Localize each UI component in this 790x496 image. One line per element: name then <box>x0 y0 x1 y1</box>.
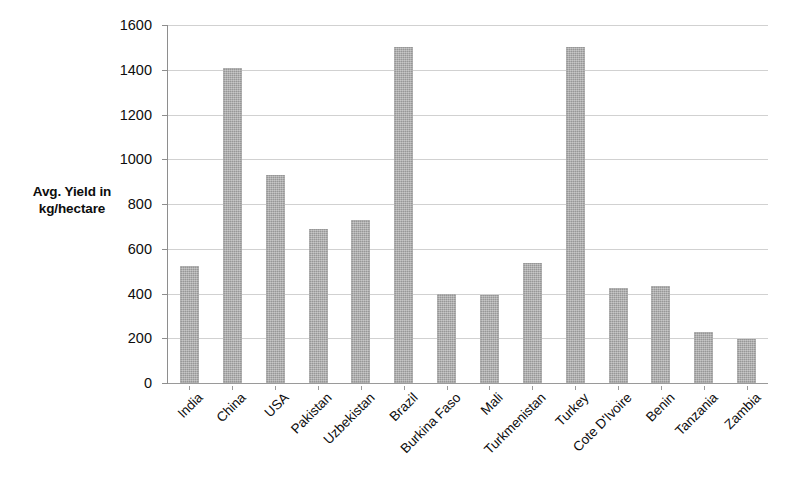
y-axis-tick <box>162 115 168 116</box>
x-axis-tick <box>275 386 276 390</box>
x-axis-tick-label: China <box>214 390 249 425</box>
bar <box>180 266 199 383</box>
y-axis-tick-label: 0 <box>92 375 152 391</box>
x-axis-tick <box>318 386 319 390</box>
bar <box>309 229 328 383</box>
x-axis-tick <box>532 386 533 390</box>
gridline <box>168 159 768 160</box>
x-axis-tick <box>447 386 448 390</box>
bar <box>394 47 413 383</box>
x-axis-tick <box>361 386 362 390</box>
x-axis-tick-label: India <box>175 390 206 421</box>
x-axis-tick <box>661 386 662 390</box>
y-axis-tick-label: 200 <box>92 330 152 346</box>
x-axis-tick <box>489 386 490 390</box>
bar <box>480 295 499 383</box>
plot-area <box>168 25 768 383</box>
y-axis-tick-label: 1000 <box>92 151 152 167</box>
y-axis-tick <box>162 204 168 205</box>
y-axis-tick-labels: 02004006008001000120014001600 <box>92 0 152 496</box>
y-axis-tick-label: 800 <box>92 196 152 212</box>
y-axis-tick <box>162 294 168 295</box>
bar <box>266 175 285 383</box>
gridline <box>168 25 768 26</box>
bar <box>523 263 542 383</box>
bar <box>566 47 585 383</box>
x-axis-baseline <box>168 383 768 384</box>
gridline <box>168 204 768 205</box>
gridline <box>168 294 768 295</box>
y-axis-tick <box>162 338 168 339</box>
y-axis-tick-label: 1200 <box>92 107 152 123</box>
x-axis-tick-label: Turkey <box>553 390 592 429</box>
x-axis-tick <box>189 386 190 390</box>
gridline <box>168 70 768 71</box>
gridline <box>168 338 768 339</box>
x-axis-tick <box>232 386 233 390</box>
y-axis-tick <box>162 70 168 71</box>
bar <box>609 288 628 383</box>
y-axis-tick <box>162 25 168 26</box>
y-axis-tick-label: 400 <box>92 286 152 302</box>
y-axis-tick <box>162 383 168 384</box>
y-axis-tick-label: 600 <box>92 241 152 257</box>
x-axis-tick-label: Zambia <box>721 390 763 432</box>
bar <box>651 286 670 383</box>
x-axis-tick <box>747 386 748 390</box>
bar <box>737 339 756 383</box>
y-axis-tick <box>162 249 168 250</box>
x-axis-tick <box>575 386 576 390</box>
y-axis-tick-label: 1600 <box>92 17 152 33</box>
x-axis-tick-label: USA <box>262 390 292 420</box>
y-axis-tick <box>162 159 168 160</box>
x-axis-tick-label: Mali <box>478 390 506 418</box>
x-axis-tick-label: Tanzania <box>672 390 720 438</box>
gridline <box>168 249 768 250</box>
x-axis-tick <box>704 386 705 390</box>
bar <box>437 294 456 384</box>
y-axis-tick-label: 1400 <box>92 62 152 78</box>
bar <box>351 220 370 383</box>
x-axis-tick-labels: IndiaChinaUSAPakistanUzbekistanBrazilBur… <box>168 386 768 496</box>
bar <box>223 68 242 383</box>
x-axis-tick-label: Brazil <box>386 390 420 424</box>
gridline <box>168 115 768 116</box>
x-axis-tick-label: Benin <box>643 390 678 425</box>
x-axis-tick <box>618 386 619 390</box>
x-axis-tick <box>404 386 405 390</box>
bar <box>694 332 713 383</box>
bar-chart: Avg. Yield in kg/hectare 020040060080010… <box>0 0 790 496</box>
